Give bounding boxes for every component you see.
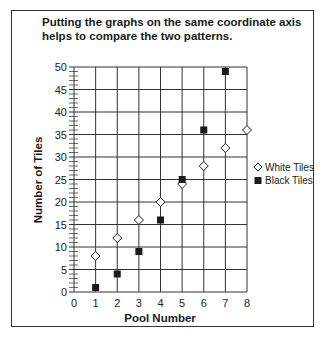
white-tile-point	[134, 216, 143, 225]
white-tile-point	[113, 234, 122, 243]
open-diamond-icon	[254, 163, 262, 171]
y-tick-label: 30	[55, 151, 67, 163]
x-tick-label: 8	[244, 297, 250, 309]
black-tile-point	[135, 248, 142, 255]
y-tick-label: 15	[55, 219, 67, 231]
black-tile-point	[157, 217, 164, 224]
legend-item-white-tiles: White Tiles	[254, 162, 314, 173]
y-tick-label: 50	[55, 61, 67, 73]
y-tick-label: 25	[55, 174, 67, 186]
x-tick-label: 7	[222, 297, 228, 309]
y-axis-title: Number of Tiles	[32, 137, 44, 224]
legend-item-black-tiles: Black Tiles	[255, 175, 313, 186]
y-tick-label: 10	[55, 241, 67, 253]
filled-square-icon	[255, 177, 262, 184]
y-tick-labels: 05101520253035404550	[55, 61, 67, 298]
x-tick-label: 2	[114, 297, 120, 309]
x-tick-label: 3	[136, 297, 142, 309]
black-tile-point	[200, 127, 207, 134]
y-tick-label: 45	[55, 84, 67, 96]
white-tile-point	[199, 162, 208, 171]
legend-label-white: White Tiles	[265, 162, 314, 173]
plot-grid	[74, 67, 247, 292]
y-tick-label: 5	[61, 264, 67, 276]
y-tick-label: 0	[61, 286, 67, 298]
white-tile-point	[156, 198, 165, 207]
y-tick-label: 20	[55, 196, 67, 208]
x-axis-title: Pool Number	[124, 312, 196, 324]
x-tick-label: 0	[71, 297, 77, 309]
white-tile-point	[91, 252, 100, 261]
x-tick-label: 1	[93, 297, 99, 309]
y-tick-label: 35	[55, 129, 67, 141]
y-tick-label: 40	[55, 106, 67, 118]
x-tick-labels: 012345678	[71, 297, 250, 309]
legend-label-black: Black Tiles	[265, 175, 313, 186]
x-tick-label: 4	[157, 297, 163, 309]
scatter-chart: 012345678 05101520253035404550 Pool Numb…	[0, 0, 326, 341]
x-tick-label: 5	[179, 297, 185, 309]
white-tile-point	[221, 144, 230, 153]
black-tile-point	[114, 271, 121, 278]
black-tile-point	[92, 284, 99, 291]
black-tile-point	[179, 176, 186, 183]
x-tick-label: 6	[201, 297, 207, 309]
black-tile-point	[222, 68, 229, 75]
white-tile-point	[243, 126, 252, 135]
chart-legend: White Tiles Black Tiles	[254, 162, 314, 186]
